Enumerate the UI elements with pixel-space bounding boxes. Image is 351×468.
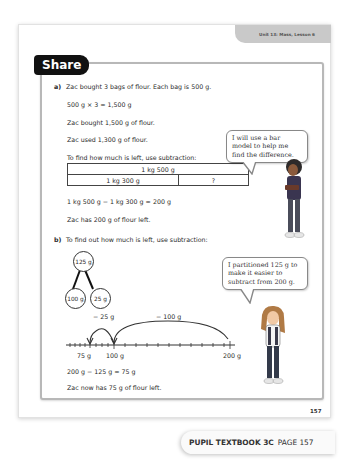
speech-bubble-girl: I partitioned 125 g to make it easier to… <box>222 257 308 290</box>
number-line <box>60 315 240 355</box>
page-number: 157 <box>310 408 321 414</box>
part-a-line-4: Zac used 1,300 g of flour. <box>67 136 148 143</box>
part-b-conclusion: Zac now has 75 g of flour left. <box>67 384 161 391</box>
jump-label-100: − 100 g <box>156 313 181 320</box>
bar-part-unknown: ? <box>178 175 248 185</box>
tick-label-200: 200 g <box>223 352 241 359</box>
boy-character-icon <box>280 158 308 242</box>
part-a-line-5: To find how much is left, use subtractio… <box>67 154 196 161</box>
footer-page-tab: PUPIL TEXTBOOK 3C PAGE 157 <box>181 431 335 454</box>
bar-model-bottom: 1 kg 300 g ? <box>67 174 249 186</box>
part-circle-2: 25 g <box>90 288 111 309</box>
part-b-label: b) <box>54 236 61 243</box>
part-a-conclusion: Zac has 200 g of flour left. <box>67 216 150 223</box>
section-title: Share <box>34 55 89 75</box>
part-a-equation: 1 kg 500 g − 1 kg 300 g = 200 g <box>67 198 171 205</box>
book-title: PUPIL TEXTBOOK 3C <box>189 438 274 447</box>
bar-part-known: 1 kg 300 g <box>68 175 178 185</box>
tick-label-75: 75 g <box>77 352 91 359</box>
part-b-intro: To find out how much is left, use subtra… <box>66 236 208 243</box>
unit-lesson-tab: Unit 13: Mass, Lesson 6 <box>235 25 331 43</box>
part-b-equation: 200 g − 125 g = 75 g <box>67 368 136 375</box>
page-label: PAGE 157 <box>278 438 314 447</box>
part-a-line-2: 500 g × 3 = 1,500 g <box>67 101 132 108</box>
bar-whole: 1 kg 500 g <box>68 164 248 174</box>
part-a-line-1: Zac bought 3 bags of flour. Each bag is … <box>66 83 211 90</box>
girl-character-icon <box>258 305 288 389</box>
speech-tail-icon <box>238 288 260 304</box>
speech-tail-icon <box>240 161 262 175</box>
part-a-line-3: Zac bought 1,500 g of flour. <box>67 119 155 126</box>
whole-circle: 125 g <box>73 251 94 272</box>
tick-label-100: 100 g <box>106 352 124 359</box>
part-a-label: a) <box>54 83 61 90</box>
part-circle-1: 100 g <box>65 288 86 309</box>
jump-label-25: − 25 g <box>93 313 114 320</box>
